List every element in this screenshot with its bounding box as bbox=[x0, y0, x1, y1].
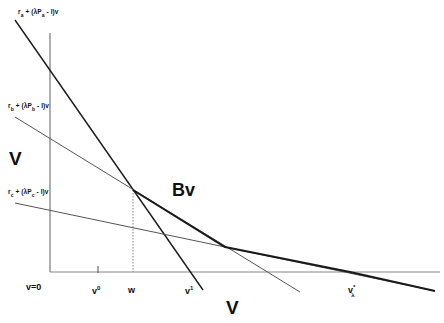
x-axis-label: V bbox=[226, 297, 239, 319]
line-b-label: rb + (λPb - I)v bbox=[8, 102, 49, 112]
bv-label: Bv bbox=[172, 180, 195, 201]
line-a bbox=[15, 20, 203, 290]
vstar-label: v*λ bbox=[348, 284, 359, 295]
bv-envelope bbox=[133, 190, 435, 291]
line-a-label: ra + (λPa - I)v bbox=[18, 8, 59, 18]
origin-label: v=0 bbox=[26, 282, 41, 292]
w-label: w bbox=[128, 285, 135, 295]
diagram-canvas bbox=[0, 0, 444, 323]
v0-label: v0 bbox=[92, 285, 100, 296]
line-c-label: rc + (λPc - I)v bbox=[8, 188, 49, 198]
v1-label: v1 bbox=[185, 285, 193, 296]
y-axis-label: V bbox=[9, 148, 22, 170]
